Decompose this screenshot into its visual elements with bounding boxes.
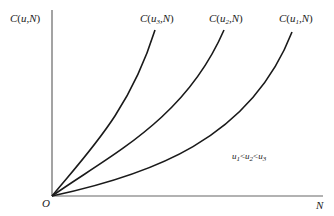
x-axis-label: N bbox=[316, 199, 323, 211]
curve-label-u2: C(u2,N) bbox=[209, 12, 243, 26]
diagram-canvas: C(u,N) C(u3,N) C(u2,N) C(u1,N) u1<u2<u3 … bbox=[0, 0, 334, 216]
curve-label-u3: C(u3,N) bbox=[140, 12, 174, 26]
ordering-annotation: u1<u2<u3 bbox=[232, 151, 266, 163]
diagram-svg bbox=[0, 0, 334, 216]
y-axis-label: C(u,N) bbox=[10, 12, 40, 24]
curve-label-u1: C(u1,N) bbox=[279, 12, 313, 26]
origin-label: O bbox=[42, 197, 50, 209]
